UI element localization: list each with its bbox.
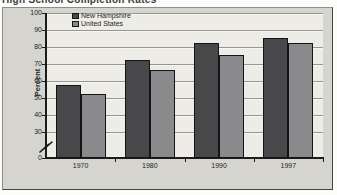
- x-tick-label-1970: 1970: [61, 162, 101, 169]
- legend-label-united-states: United States: [81, 20, 123, 28]
- bar-new-hampshire-1980: [125, 60, 150, 158]
- gridline-90: [46, 30, 323, 31]
- x-tick-mark-1990: [254, 159, 255, 162]
- bar-united-states-1970: [81, 94, 106, 158]
- axis-break-icon: [38, 141, 54, 155]
- bar-new-hampshire-1997: [263, 38, 288, 158]
- y-tick-mark-0: [42, 158, 46, 159]
- bar-new-hampshire-1970: [56, 85, 81, 158]
- bar-new-hampshire-1990: [194, 43, 219, 158]
- x-tick-mark-1970: [115, 159, 116, 162]
- y-tick-mark-40: [42, 115, 46, 116]
- y-tick-label-90: 90: [20, 26, 42, 34]
- chart-title: High School Completion Rates: [2, 0, 157, 5]
- y-tick-label-100: 100: [20, 9, 42, 17]
- y-tick-label-0: 0: [20, 154, 42, 162]
- y-axis-title: Percent: [33, 53, 42, 113]
- y-tick-mark-90: [42, 30, 46, 31]
- x-tick-label-1980: 1980: [130, 162, 170, 169]
- bar-united-states-1997: [288, 43, 313, 158]
- legend-item-united-states: United States: [72, 20, 131, 28]
- legend: New Hampshire United States: [72, 12, 131, 28]
- legend-label-new-hampshire: New Hampshire: [81, 12, 131, 20]
- x-tick-mark-1980: [185, 159, 186, 162]
- legend-item-new-hampshire: New Hampshire: [72, 12, 131, 20]
- chart-title-strip: High School Completion Rates: [0, 0, 337, 7]
- y-tick-mark-30: [42, 132, 46, 133]
- y-tick-label-80: 80: [20, 43, 42, 51]
- legend-swatch-new-hampshire-icon: [72, 13, 79, 19]
- chart-figure: High School Completion Rates 03040506070…: [0, 0, 337, 195]
- bar-united-states-1980: [150, 70, 175, 158]
- bar-united-states-1990: [219, 55, 244, 158]
- y-tick-mark-100: [42, 13, 46, 14]
- y-tick-mark-80: [42, 47, 46, 48]
- x-tick-mark-1997: [323, 159, 324, 162]
- y-tick-mark-50: [42, 98, 46, 99]
- x-tick-label-1997: 1997: [268, 162, 308, 169]
- legend-swatch-united-states-icon: [72, 21, 79, 27]
- y-axis-line: [45, 13, 47, 159]
- y-tick-label-30: 30: [20, 128, 42, 136]
- y-tick-mark-60: [42, 81, 46, 82]
- y-tick-mark-70: [42, 64, 46, 65]
- x-tick-label-1990: 1990: [199, 162, 239, 169]
